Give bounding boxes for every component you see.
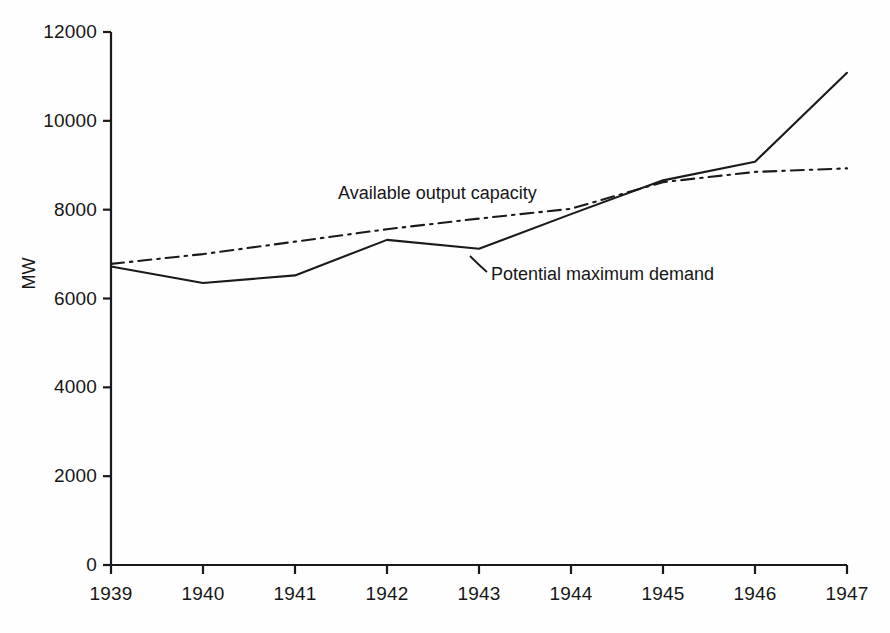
annotation-potential-maximum-demand: Potential maximum demand	[491, 264, 714, 285]
x-tick-label: 1939	[89, 583, 132, 605]
y-tick-label: 8000	[0, 199, 97, 221]
axis-lines	[111, 32, 847, 565]
x-tick-label: 1945	[641, 583, 684, 605]
data-series-layer	[111, 73, 847, 283]
annotation-available-output-capacity: Available output capacity	[338, 183, 537, 204]
y-tick-label: 2000	[0, 465, 97, 487]
x-tick-label: 1944	[549, 583, 592, 605]
chart-plot-area	[0, 0, 890, 633]
y-axis-title: MW	[19, 257, 40, 289]
x-tick-label: 1947	[825, 583, 868, 605]
line-chart: MW 120001000080006000400020000 193919401…	[0, 0, 890, 633]
x-tick-label: 1941	[273, 583, 316, 605]
x-tick-label: 1942	[365, 583, 408, 605]
x-axis-ticks	[111, 565, 847, 574]
y-tick-label: 4000	[0, 376, 97, 398]
y-tick-label: 12000	[0, 21, 97, 43]
y-axis-ticks	[103, 32, 111, 565]
x-tick-label: 1940	[181, 583, 224, 605]
x-tick-label: 1946	[733, 583, 776, 605]
leader-line-demand	[470, 256, 487, 272]
y-tick-label: 10000	[0, 110, 97, 132]
annotation-leader-lines	[470, 256, 487, 272]
x-tick-label: 1943	[457, 583, 500, 605]
y-tick-label: 6000	[0, 288, 97, 310]
y-tick-label: 0	[0, 554, 97, 576]
